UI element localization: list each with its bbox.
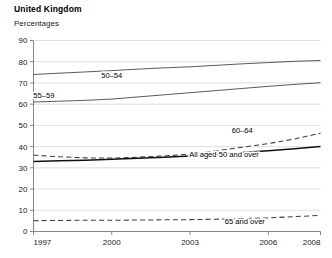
x-axis-tick-label: 2006 — [259, 238, 277, 247]
series-lines — [34, 60, 321, 220]
y-axis-tick-label: 30 — [19, 164, 28, 173]
y-axis-tick-label: 50 — [19, 121, 28, 130]
series-label: All aged 50 and over — [189, 150, 259, 159]
series-line — [34, 215, 321, 220]
gridlines — [34, 41, 321, 211]
chart-figure: United Kingdom Percentages 0102030405060… — [0, 0, 332, 258]
x-axis-tick-label: 2003 — [181, 238, 199, 247]
series-line — [34, 60, 321, 74]
y-axis-tick-label: 90 — [19, 36, 28, 45]
series-label: 55–59 — [33, 91, 54, 100]
series-line — [34, 147, 321, 162]
series-label: 50–54 — [101, 71, 122, 80]
y-axis: 0102030405060708090 — [19, 36, 34, 236]
y-axis-tick-label: 10 — [19, 206, 28, 215]
y-axis-tick-label: 40 — [19, 143, 28, 152]
line-chart-plot: 0102030405060708090 19972000200320062008… — [0, 0, 332, 258]
y-axis-tick-label: 0 — [23, 227, 28, 236]
series-label: 60–64 — [232, 126, 253, 135]
series-label: 65 and over — [225, 217, 266, 226]
x-axis: 19972000200320062008 — [34, 232, 322, 248]
y-axis-tick-label: 80 — [19, 58, 28, 67]
y-axis-tick-label: 20 — [19, 185, 28, 194]
x-axis-tick-label: 1997 — [34, 238, 52, 247]
y-axis-tick-label: 70 — [19, 79, 28, 88]
y-axis-tick-label: 60 — [19, 100, 28, 109]
series-line — [34, 133, 321, 158]
x-axis-tick-label: 2000 — [103, 238, 121, 247]
x-axis-tick-label: 2008 — [303, 238, 321, 247]
series-line — [34, 83, 321, 102]
